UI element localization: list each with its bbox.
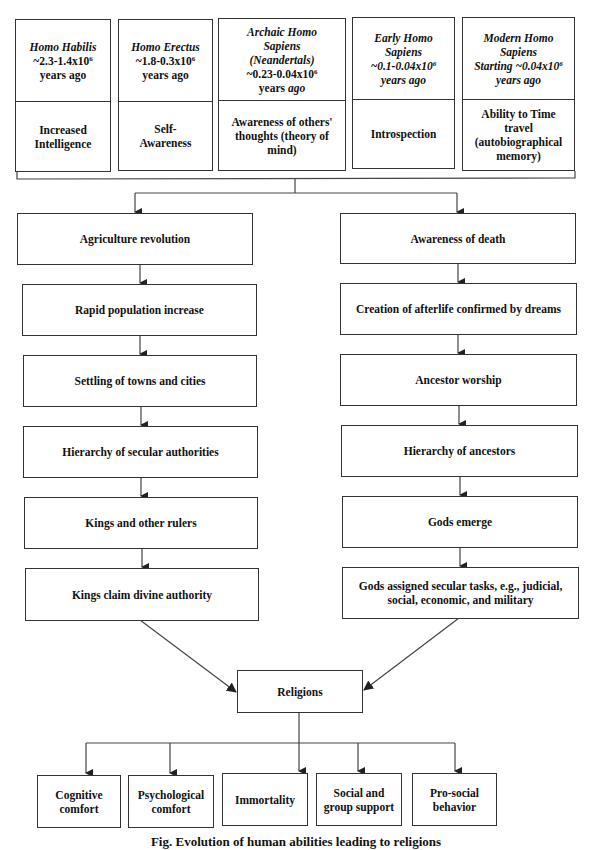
species-box-homo-habilis: Homo Habilis ~2.3-1.4x106 years ago Incr… [15, 19, 111, 172]
species-box-early-homo-sapiens: Early Homo Sapiens ~0.1-0.04x106 years a… [352, 17, 455, 169]
species-range: ~1.8-0.3x106 [131, 54, 200, 68]
species-box-modern-homo-sapiens: Modern Homo Sapiens Starting ~0.04x106 y… [462, 17, 575, 171]
species-range: ~2.3-1.4x106 [30, 54, 97, 68]
species-suffix: years ago [247, 81, 318, 95]
species-header: Early Homo Sapiens ~0.1-0.04x106 years a… [353, 18, 454, 100]
species-name-line2: Sapiens [474, 45, 563, 59]
left-step-5: Kings and other rulers [24, 497, 258, 549]
right-step-2: Creation of afterlife confirmed by dream… [340, 283, 577, 335]
left-step-3: Settling of towns and cities [23, 355, 257, 407]
species-box-homo-erectus: Homo Erectus ~1.8-0.3x106 years ago Self… [118, 19, 213, 171]
species-suffix: years ago [30, 68, 97, 82]
outcome-pro-social-behavior: Pro-social behavior [412, 773, 497, 826]
right-step-5: Gods emerge [342, 496, 578, 548]
species-name-line2: Sapiens [371, 45, 437, 59]
species-range: ~0.23-0.04x106 [247, 67, 318, 81]
right-step-6: Gods assigned secular tasks, e.g., judic… [342, 567, 579, 619]
right-step-4: Hierarchy of ancestors [341, 425, 578, 477]
species-suffix: years ago [371, 73, 437, 87]
species-range: Starting ~0.04x106 [474, 59, 563, 73]
species-trait: Ability to Time travel (autobiographical… [463, 100, 574, 170]
species-header: Modern Homo Sapiens Starting ~0.04x106 y… [463, 18, 574, 100]
outcome-cognitive-comfort: Cognitive comfort [37, 775, 121, 828]
species-header: Homo Erectus ~1.8-0.3x106 years ago [119, 20, 212, 102]
outcome-immortality: Immortality [222, 773, 308, 826]
species-trait: Self-Awareness [119, 102, 212, 170]
left-step-1: Agriculture revolution [17, 213, 253, 265]
species-box-archaic-homo-sapiens: Archaic Homo Sapiens (Neandertals) ~0.23… [218, 18, 346, 171]
species-name: Homo Habilis [30, 40, 97, 54]
species-name-line3: (Neandertals) [247, 53, 318, 67]
species-suffix: years ago [131, 68, 200, 82]
outcome-social-group-support: Social and group support [316, 773, 402, 826]
right-step-3: Ancestor worship [340, 354, 577, 406]
species-trait: Awareness of others' thoughts (theory of… [219, 101, 345, 170]
species-header: Archaic Homo Sapiens (Neandertals) ~0.23… [219, 19, 345, 101]
species-name-line1: Early Homo [371, 31, 437, 45]
species-trait: Increased Intelligence [16, 102, 110, 171]
species-header: Homo Habilis ~2.3-1.4x106 years ago [16, 20, 110, 102]
religions-box: Religions [237, 670, 363, 713]
species-name-line1: Modern Homo [474, 31, 563, 45]
species-trait: Introspection [353, 100, 454, 168]
left-step-2: Rapid population increase [22, 284, 257, 336]
species-name-line2: Sapiens [247, 39, 318, 53]
left-step-4: Hierarchy of secular authorities [23, 426, 258, 478]
left-step-6: Kings claim divine authority [25, 568, 259, 621]
species-suffix: years ago [474, 73, 563, 87]
species-name-line1: Archaic Homo [247, 25, 318, 39]
outcome-psychological-comfort: Psychological comfort [128, 775, 214, 828]
species-range: ~0.1-0.04x106 [371, 59, 437, 73]
right-step-1: Awareness of death [340, 213, 576, 264]
species-name: Homo Erectus [131, 40, 200, 54]
figure-caption: Fig. Evolution of human abilities leadin… [0, 834, 592, 850]
